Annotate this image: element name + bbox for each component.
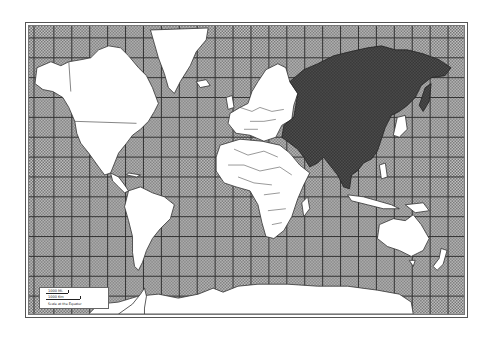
scale-caption: Scale at the Equator — [48, 302, 82, 306]
world-map — [29, 26, 464, 314]
map-frame: 1000 Mi. 1000 Km Scale at the Equator — [25, 22, 468, 318]
map-area: 1000 Mi. 1000 Km Scale at the Equator — [28, 25, 465, 315]
scale-legend: 1000 Mi. 1000 Km Scale at the Equator — [39, 287, 109, 309]
scale-label-km: 1000 Km — [48, 295, 64, 299]
scale-tick — [68, 290, 69, 293]
scale-bar-km — [46, 299, 80, 300]
scale-bar-miles — [46, 293, 68, 294]
scale-tick — [80, 296, 81, 299]
scale-label-miles: 1000 Mi. — [48, 289, 63, 293]
